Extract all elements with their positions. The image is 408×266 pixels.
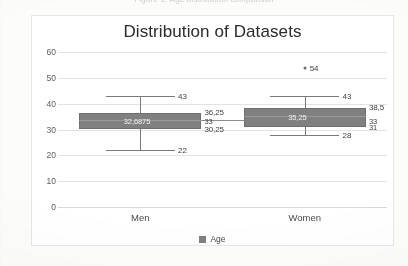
y-tick-label: 60 bbox=[34, 47, 56, 57]
label-whisker-max: 43 bbox=[343, 91, 352, 100]
label-outlier: 54 bbox=[310, 63, 319, 72]
y-axis-labels: 60 50 40 30 20 10 0 bbox=[31, 52, 56, 207]
whisker-upper bbox=[140, 96, 141, 113]
whisker-cap-upper bbox=[270, 96, 339, 97]
chart-title: Distribution of Datasets bbox=[32, 22, 393, 42]
x-label-men: Men bbox=[131, 212, 149, 223]
y-tick-label: 40 bbox=[34, 99, 56, 109]
label-whisker-min: 28 bbox=[343, 130, 352, 139]
label-q3: 36,25 bbox=[204, 108, 224, 117]
x-axis-labels: Men Women bbox=[58, 212, 387, 228]
whisker-lower bbox=[140, 129, 141, 150]
boxplot-women: 54 43 28 35,25 38,5 33 31 bbox=[223, 52, 388, 207]
page-cutoff-text: Figure 1: Age distribution comparison bbox=[0, 0, 408, 11]
whisker-cap-lower bbox=[106, 150, 175, 151]
label-mean: 35,25 bbox=[288, 112, 306, 121]
legend-swatch-icon bbox=[199, 236, 206, 243]
chart-container: Distribution of Datasets 60 50 40 30 20 … bbox=[31, 15, 394, 246]
label-mean: 32,6875 bbox=[124, 117, 150, 126]
whisker-upper bbox=[305, 96, 306, 108]
boxplot-men: 43 22 32,6875 36,25 33 30,25 bbox=[58, 52, 223, 207]
whisker-lower bbox=[305, 127, 306, 135]
y-tick-label: 30 bbox=[34, 125, 56, 135]
y-tick-label: 0 bbox=[34, 202, 56, 212]
label-q1: 31 bbox=[369, 123, 377, 132]
label-whisker-min: 22 bbox=[178, 146, 187, 155]
y-tick-label: 10 bbox=[34, 176, 56, 186]
chart-legend: Age bbox=[32, 234, 393, 244]
label-q1: 30,25 bbox=[204, 125, 224, 134]
label-q3: 38,5 bbox=[369, 103, 384, 112]
whisker-cap-lower bbox=[270, 135, 339, 136]
label-whisker-max: 43 bbox=[178, 91, 187, 100]
plot-area: 43 22 32,6875 36,25 33 30,25 54 43 28 35… bbox=[58, 52, 387, 207]
whisker-cap-upper bbox=[106, 96, 175, 97]
legend-label: Age bbox=[210, 234, 225, 244]
y-tick-label: 20 bbox=[34, 150, 56, 160]
outlier-point bbox=[303, 66, 306, 69]
chart-screenshot: Figure 1: Age distribution comparison Di… bbox=[0, 0, 408, 266]
y-tick-label: 50 bbox=[34, 73, 56, 83]
gridline-0 bbox=[58, 207, 387, 208]
x-label-women: Women bbox=[288, 212, 321, 223]
